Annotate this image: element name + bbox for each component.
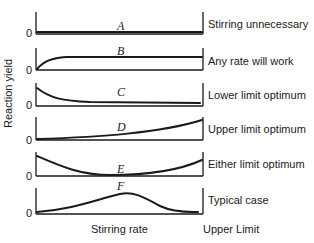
letter-e: E	[117, 163, 124, 175]
label-upper-limit: Upper limit optimum	[208, 124, 306, 135]
label-stirring-unnecessary: Stirring unnecessary	[208, 19, 308, 30]
zero-label-d: 0	[26, 135, 32, 146]
x-axis-end-label: Upper Limit	[203, 223, 259, 235]
curve-b	[37, 57, 202, 69]
letter-f: F	[117, 180, 124, 192]
letter-d: D	[117, 121, 126, 133]
zero-label-b: 0	[26, 65, 32, 76]
zero-label-e: 0	[26, 171, 32, 182]
label-any-rate: Any rate will work	[208, 56, 294, 67]
diagram-canvas	[0, 0, 314, 243]
y-axis-label: Reaction yield	[2, 59, 14, 128]
zero-label-f: 0	[26, 208, 32, 219]
label-lower-limit: Lower limit optimum	[208, 90, 306, 101]
zero-label-c: 0	[26, 100, 32, 111]
x-axis-label: Stirring rate	[91, 223, 148, 235]
curve-f	[37, 193, 198, 212]
zero-label-a: 0	[26, 28, 32, 39]
letter-c: C	[117, 86, 125, 98]
label-typical-case: Typical case	[208, 195, 269, 206]
label-either-limit: Either limit optimum	[208, 159, 305, 170]
letter-b: B	[117, 45, 124, 57]
letter-a: A	[117, 20, 124, 32]
